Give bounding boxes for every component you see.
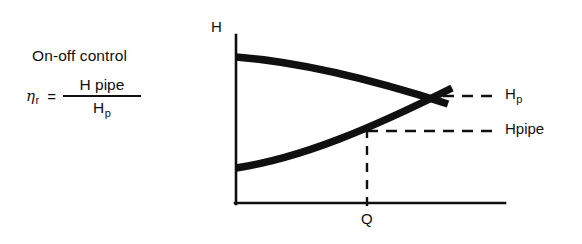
hpipe-curve-label: Hpipe: [505, 121, 544, 136]
pump-head-curve: [236, 57, 448, 104]
hp-label-subscript: p: [516, 94, 522, 105]
figure-on-off-control: On-off control η r = H pipe H p: [0, 0, 582, 244]
pump-system-curve-chart: [0, 0, 582, 244]
x-axis-label: Q: [361, 211, 373, 226]
hp-curve-label: H p: [505, 86, 522, 101]
hp-label-base: H: [505, 86, 516, 101]
pipe-system-curve: [236, 88, 452, 168]
y-axis-label: H: [211, 19, 222, 34]
